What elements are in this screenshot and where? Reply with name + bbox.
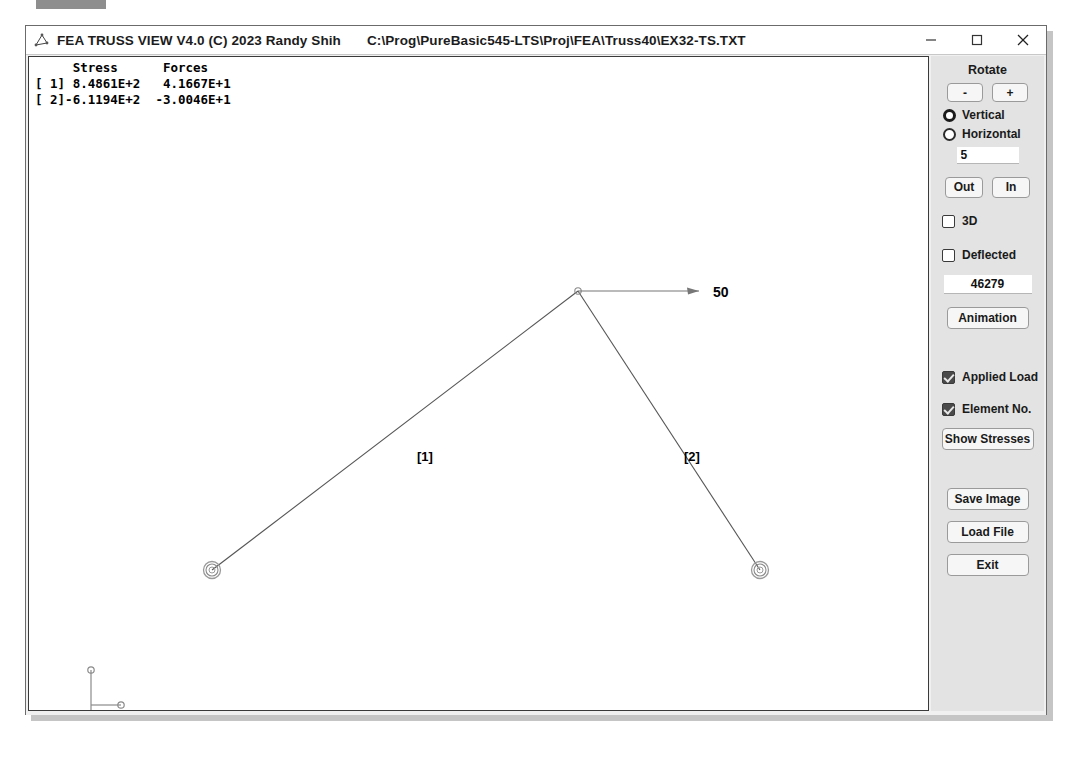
checkbox-applied-load[interactable]: Applied Load <box>942 370 1044 384</box>
radio-horizontal-label: Horizontal <box>962 127 1021 141</box>
window-titlebar[interactable]: FEA TRUSS VIEW V4.0 (C) 2023 Randy Shih … <box>26 26 1046 55</box>
coordinate-axis-triad <box>88 667 124 710</box>
truss-element-1 <box>212 291 578 570</box>
applied-load-arrow <box>578 288 699 295</box>
minimize-icon <box>924 33 938 47</box>
exit-row: Exit <box>931 554 1044 576</box>
rotate-buttons-row: - + <box>931 83 1044 102</box>
deflection-scale-input[interactable] <box>944 275 1032 294</box>
window-file-path: C:\Prog\PureBasic545-LTS\Proj\FEA\Truss4… <box>367 33 746 48</box>
window-client-area: Stress Forces [ 1] 8.4861E+2 4.1667E+1 [… <box>26 55 1046 715</box>
desktop-top-stub <box>36 0 106 9</box>
maximize-button[interactable] <box>954 26 1000 54</box>
show-stresses-row: Show Stresses <box>931 428 1044 450</box>
scale-field-row <box>931 275 1044 294</box>
rotate-step-input[interactable] <box>957 147 1019 164</box>
checkbox-applied-load-box[interactable] <box>942 371 955 384</box>
radio-vertical-indicator[interactable] <box>943 109 956 122</box>
element-label-1: [1] <box>417 449 433 464</box>
control-panel: Rotate - + Vertical Horizontal <box>931 56 1044 711</box>
zoom-in-button[interactable]: In <box>992 177 1030 198</box>
rotate-minus-button[interactable]: - <box>947 83 983 102</box>
checkbox-element-no-box[interactable] <box>942 403 955 416</box>
radio-vertical[interactable]: Vertical <box>943 108 1044 122</box>
truss-canvas[interactable]: Stress Forces [ 1] 8.4861E+2 4.1667E+1 [… <box>28 56 929 711</box>
element-label-2: [2] <box>684 449 700 464</box>
load-file-row: Load File <box>931 521 1044 543</box>
animation-row: Animation <box>931 307 1044 329</box>
applied-load-label: 50 <box>713 284 729 300</box>
radio-horizontal-indicator[interactable] <box>943 128 956 141</box>
animation-button[interactable]: Animation <box>947 307 1029 329</box>
radio-vertical-label: Vertical <box>962 108 1005 122</box>
truss-drawing <box>29 57 928 710</box>
close-button[interactable] <box>1000 26 1046 54</box>
maximize-icon <box>970 33 984 47</box>
fea-truss-view-window: FEA TRUSS VIEW V4.0 (C) 2023 Randy Shih … <box>25 25 1047 715</box>
checkbox-element-no[interactable]: Element No. <box>942 402 1044 416</box>
checkbox-element-no-label: Element No. <box>962 402 1031 416</box>
rotate-section-title: Rotate <box>931 63 1044 77</box>
truss-element-2 <box>578 291 760 570</box>
rotate-step-row <box>931 147 1044 164</box>
window-title: FEA TRUSS VIEW V4.0 (C) 2023 Randy Shih <box>57 33 341 48</box>
checkbox-applied-load-label: Applied Load <box>962 370 1038 384</box>
zoom-buttons-row: Out In <box>931 177 1044 198</box>
minimize-button[interactable] <box>908 26 954 54</box>
checkbox-deflected-label: Deflected <box>962 248 1016 262</box>
zoom-out-button[interactable]: Out <box>945 177 983 198</box>
save-image-button[interactable]: Save Image <box>947 488 1029 510</box>
load-file-button[interactable]: Load File <box>947 521 1029 543</box>
window-controls <box>908 26 1046 54</box>
exit-button[interactable]: Exit <box>947 554 1029 576</box>
checkbox-3d-label: 3D <box>962 214 977 228</box>
rotate-plus-button[interactable]: + <box>992 83 1028 102</box>
checkbox-deflected-box[interactable] <box>942 249 955 262</box>
desktop-background: FEA TRUSS VIEW V4.0 (C) 2023 Randy Shih … <box>0 0 1073 768</box>
app-truss-icon <box>33 31 51 49</box>
checkbox-3d-box[interactable] <box>942 215 955 228</box>
checkbox-3d[interactable]: 3D <box>942 214 1044 228</box>
close-icon <box>1015 32 1031 48</box>
checkbox-deflected[interactable]: Deflected <box>942 248 1044 262</box>
show-stresses-button[interactable]: Show Stresses <box>942 428 1034 450</box>
save-image-row: Save Image <box>931 488 1044 510</box>
radio-horizontal[interactable]: Horizontal <box>943 127 1044 141</box>
